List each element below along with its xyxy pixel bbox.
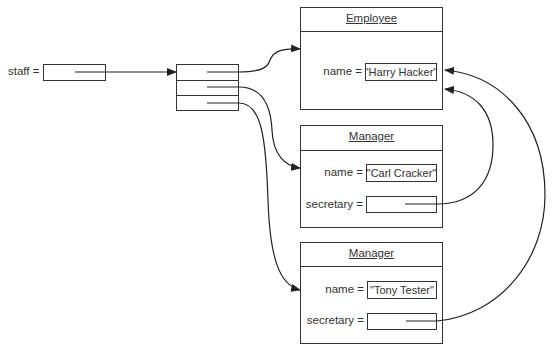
reference-arrows: [0, 0, 553, 352]
arrow-array2-to-manager2: [207, 103, 300, 290]
arrow-array0-to-employee: [207, 49, 300, 72]
arrow-carl-secretary-to-employee: [405, 89, 493, 204]
arrow-tony-secretary-to-employee: [406, 70, 545, 321]
arrow-array1-to-manager1: [207, 87, 300, 168]
